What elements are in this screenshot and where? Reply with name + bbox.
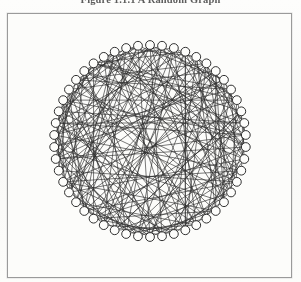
figure-caption: Figure 1.1.1 A Random Graph	[0, 0, 301, 6]
figure-border-box	[7, 13, 292, 278]
figure-page: Figure 1.1.1 A Random Graph	[0, 0, 301, 282]
